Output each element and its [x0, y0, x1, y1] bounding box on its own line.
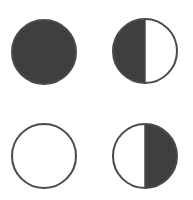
moon-phase-diagram	[0, 0, 193, 200]
empty-circle	[12, 124, 76, 188]
full-filled-circle	[12, 20, 76, 84]
right-half-filled-circle	[113, 124, 177, 188]
left-half-filled-circle	[113, 19, 177, 83]
